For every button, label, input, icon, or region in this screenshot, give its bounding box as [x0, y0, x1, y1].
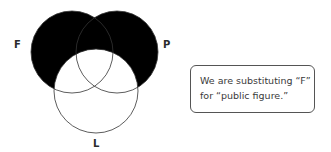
shaded-region	[31, 11, 158, 93]
label-p: P	[163, 40, 170, 50]
venn-diagram: F P L	[0, 0, 180, 152]
note-box: We are substituting “F” for “public figu…	[190, 65, 315, 113]
label-l: L	[93, 139, 99, 149]
label-f: F	[14, 40, 21, 50]
note-line-1: We are substituting “F”	[200, 73, 314, 88]
circle-l	[54, 49, 138, 133]
note-line-2: for “public figure.”	[200, 88, 314, 103]
venn-svg	[0, 0, 180, 152]
